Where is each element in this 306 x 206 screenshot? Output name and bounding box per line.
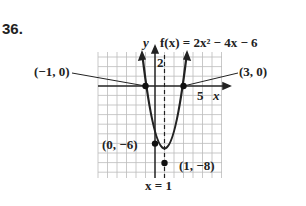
point-label-0-neg6: (0, −6) <box>102 137 138 153</box>
y-tick-label: 2 <box>157 55 164 71</box>
point-label-neg1-0: (−1, 0) <box>34 64 70 80</box>
x-tick-label: 5 <box>197 88 204 104</box>
parabola-graph <box>0 0 306 206</box>
x-axis-label: x <box>213 88 220 104</box>
symmetry-label: x = 1 <box>145 178 172 194</box>
function-title: f(x) = 2x² − 4x − 6 <box>160 35 258 51</box>
point-label-3-0: (3, 0) <box>239 64 267 80</box>
vertex-label: (1, −8) <box>179 158 215 174</box>
y-axis-label: y <box>143 35 149 51</box>
